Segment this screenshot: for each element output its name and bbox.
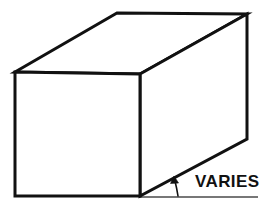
technical-drawing-figure: VARIES	[0, 0, 266, 213]
varies-angle-label: VARIES	[195, 173, 259, 191]
box-front-face	[15, 72, 140, 196]
